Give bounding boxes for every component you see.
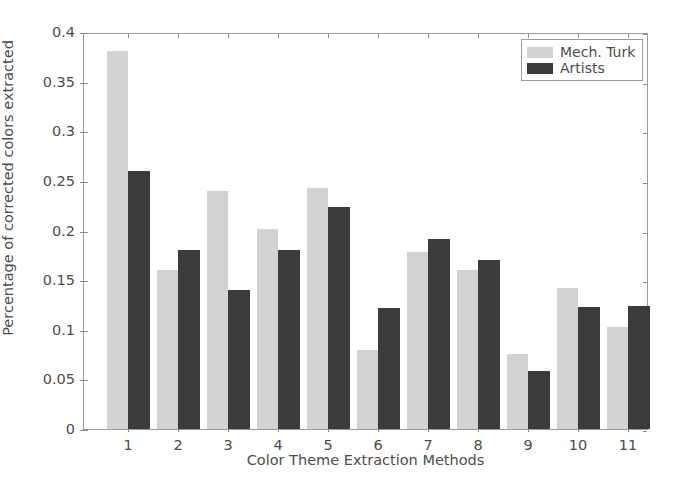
x-tick-mark-top — [428, 34, 429, 38]
y-tick-mark-inner — [84, 33, 88, 34]
y-tick-mark-inner — [84, 380, 88, 381]
x-tick-mark-top — [228, 34, 229, 38]
y-tick-mark-inner — [84, 331, 88, 332]
y-tick-label: 0.35 — [43, 74, 75, 90]
x-tick-label: 8 — [458, 437, 498, 453]
bar-mech-turk-8 — [457, 270, 479, 429]
y-tick-mark-right — [643, 34, 647, 35]
plot-area: 00.050.10.150.20.250.30.350.4 1234567891… — [83, 33, 648, 430]
legend-label-mech-turk: Mech. Turk — [560, 44, 635, 60]
bar-artists-11 — [628, 306, 650, 429]
chart-legend: Mech. Turk Artists — [521, 39, 643, 81]
x-tick-label: 7 — [408, 437, 448, 453]
x-tick-label: 5 — [308, 437, 348, 453]
x-tick-label: 10 — [558, 437, 598, 453]
bar-mech-turk-1 — [107, 51, 129, 429]
legend-item-artists: Artists — [527, 60, 635, 76]
x-tick-label: 4 — [258, 437, 298, 453]
y-axis-title: Percentage of corrected colors extracted — [0, 0, 16, 398]
x-tick-label: 11 — [608, 437, 648, 453]
bar-artists-7 — [428, 239, 450, 429]
x-axis-title: Color Theme Extraction Methods — [83, 452, 648, 468]
bar-mech-turk-5 — [307, 188, 329, 429]
y-tick-mark-right — [643, 282, 647, 283]
bar-mech-turk-9 — [507, 354, 529, 429]
y-tick-mark-inner — [84, 83, 88, 84]
x-tick-label: 9 — [508, 437, 548, 453]
x-tick-mark-top — [628, 34, 629, 38]
legend-item-mech-turk: Mech. Turk — [527, 44, 635, 60]
x-tick-mark-top — [528, 34, 529, 38]
x-tick-label: 1 — [108, 437, 148, 453]
bar-mech-turk-4 — [257, 229, 279, 429]
bar-chart-figure: 00.050.10.150.20.250.30.350.4 1234567891… — [0, 0, 683, 481]
y-tick-label: 0.15 — [43, 272, 75, 288]
bar-mech-turk-7 — [407, 252, 429, 429]
bar-mech-turk-3 — [207, 191, 229, 429]
y-tick-label: 0.1 — [52, 322, 75, 338]
legend-swatch-mech-turk — [527, 47, 553, 58]
x-tick-label: 6 — [358, 437, 398, 453]
bar-mech-turk-10 — [557, 288, 579, 429]
y-tick-mark-inner — [84, 232, 88, 233]
bar-artists-5 — [328, 207, 350, 429]
y-tick-mark-right — [643, 233, 647, 234]
legend-swatch-artists — [527, 63, 553, 74]
y-tick-label: 0 — [66, 421, 75, 437]
x-tick-mark-top — [128, 34, 129, 38]
y-tick-label: 0.2 — [52, 223, 75, 239]
legend-label-artists: Artists — [560, 60, 605, 76]
y-tick-label: 0.3 — [52, 123, 75, 139]
y-tick-label: 0.05 — [43, 371, 75, 387]
y-tick-mark-right — [643, 133, 647, 134]
y-tick-mark-inner — [84, 430, 88, 431]
y-tick-label: 0.25 — [43, 173, 75, 189]
x-tick-mark-top — [478, 34, 479, 38]
bar-artists-8 — [478, 260, 500, 429]
bar-artists-4 — [278, 250, 300, 429]
y-tick-mark-right — [643, 84, 647, 85]
bar-artists-1 — [128, 171, 150, 429]
x-tick-mark-top — [378, 34, 379, 38]
x-tick-label: 2 — [158, 437, 198, 453]
x-tick-label: 3 — [208, 437, 248, 453]
x-tick-mark-top — [178, 34, 179, 38]
y-tick-label: 0.4 — [52, 24, 75, 40]
y-tick-mark-right — [643, 183, 647, 184]
bar-artists-9 — [528, 371, 550, 429]
bar-artists-10 — [578, 307, 600, 429]
y-tick-mark-inner — [84, 281, 88, 282]
y-tick-mark-inner — [84, 132, 88, 133]
x-tick-mark-top — [278, 34, 279, 38]
x-tick-mark-top — [578, 34, 579, 38]
bar-artists-3 — [228, 290, 250, 429]
y-tick-mark-inner — [84, 182, 88, 183]
bar-mech-turk-11 — [607, 327, 629, 429]
bar-mech-turk-2 — [157, 270, 179, 429]
bar-mech-turk-6 — [357, 350, 379, 429]
bar-artists-6 — [378, 308, 400, 429]
bar-artists-2 — [178, 250, 200, 429]
x-tick-mark-top — [328, 34, 329, 38]
y-tick-mark-right — [643, 431, 647, 432]
